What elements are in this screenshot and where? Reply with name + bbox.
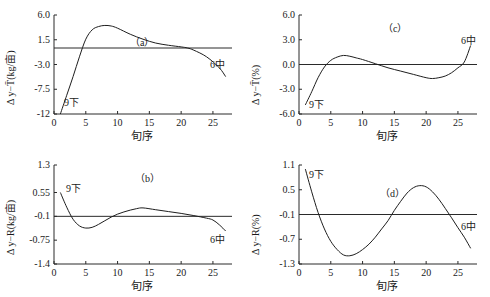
x-tick-label: 25 (205, 268, 221, 278)
end-label: 6中 (210, 60, 225, 70)
x-tick-label: 25 (450, 268, 466, 278)
x-tick-label: 25 (205, 118, 221, 128)
x-tick-label: 10 (355, 268, 371, 278)
y-tick-label: -7.5 (22, 84, 50, 94)
end-label: 6中 (210, 235, 225, 245)
y-tick-label: 0.55 (22, 188, 50, 198)
x-tick-label: 0 (291, 268, 307, 278)
data-curve (60, 193, 225, 232)
y-tick-label: -0.1 (22, 211, 50, 221)
panel-label: （c） (383, 24, 407, 34)
y-tick-label: -3.0 (22, 60, 50, 70)
chart-panel-b: 1.30.55-0.1-0.75-1.40510152025旬序Δ y−R(kg… (0, 150, 245, 297)
end-label: 6中 (461, 222, 476, 232)
panel-label: （b） (135, 174, 160, 184)
start-label: 9下 (64, 98, 79, 108)
x-tick-label: 15 (386, 268, 402, 278)
x-tick-label: 5 (78, 118, 94, 128)
x-tick-label: 15 (386, 118, 402, 128)
x-tick-label: 15 (141, 268, 157, 278)
data-curve (305, 169, 470, 256)
data-curve (305, 46, 470, 105)
y-tick-label: 0.5 (267, 185, 295, 195)
x-tick-label: 20 (418, 118, 434, 128)
x-axis-title: 旬序 (376, 131, 398, 141)
x-tick-label: 10 (110, 118, 126, 128)
start-label: 9下 (309, 100, 324, 110)
y-axis-title: Δ y−R(%) (251, 214, 261, 255)
x-tick-label: 5 (78, 268, 94, 278)
y-tick-label: -0.7 (267, 234, 295, 244)
x-tick-label: 20 (173, 118, 189, 128)
chart-panel-d: 1.10.5-0.1-0.7-1.30510152025旬序Δ y−R(%)（d… (245, 150, 490, 297)
y-axis-title: Δ y−R(kg/亩) (6, 199, 16, 254)
chart-panel-a: 6.01.5-3.0-7.5-120510152025旬序Δ y−T̄(kg/亩… (0, 0, 245, 148)
start-label: 9下 (66, 184, 81, 194)
y-tick-label: -0.1 (267, 210, 295, 220)
x-tick-label: 10 (355, 118, 371, 128)
y-tick-label: 3.0 (267, 35, 295, 45)
x-tick-label: 5 (323, 118, 339, 128)
x-tick-label: 0 (291, 118, 307, 128)
x-tick-label: 15 (141, 118, 157, 128)
x-axis-title: 旬序 (131, 281, 153, 291)
y-axis-title: Δ y−T̄(kg/亩) (6, 50, 16, 105)
y-tick-label: -3.0 (267, 84, 295, 94)
x-tick-label: 20 (173, 268, 189, 278)
x-tick-label: 20 (418, 268, 434, 278)
axis-frame (54, 15, 232, 114)
x-tick-label: 10 (110, 268, 126, 278)
x-axis-title: 旬序 (376, 281, 398, 291)
x-tick-label: 0 (46, 118, 62, 128)
y-tick-label: 6.0 (267, 10, 295, 20)
panel-label: （d） (380, 189, 405, 199)
y-tick-label: 1.5 (22, 35, 50, 45)
y-tick-label: 1.1 (267, 160, 295, 170)
panel-label: （a） (130, 38, 154, 48)
x-tick-label: 5 (323, 268, 339, 278)
chart-panel-c: 6.03.00.0-3.0-6.00510152025旬序Δ y−T̄(%)（c… (245, 0, 490, 148)
start-label: 9下 (309, 170, 324, 180)
end-label: 6中 (461, 36, 476, 46)
x-tick-label: 0 (46, 268, 62, 278)
y-axis-title: Δ y−T̄(%) (251, 64, 261, 104)
y-tick-label: 1.3 (22, 160, 50, 170)
y-tick-label: 0.0 (267, 60, 295, 70)
y-tick-label: 6.0 (22, 10, 50, 20)
x-axis-title: 旬序 (131, 131, 153, 141)
x-tick-label: 25 (450, 118, 466, 128)
y-tick-label: -0.75 (22, 235, 50, 245)
